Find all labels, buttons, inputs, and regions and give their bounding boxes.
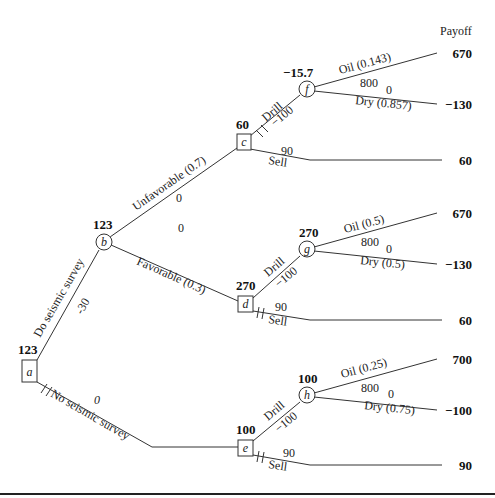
h-oil-cost: 800 [361,381,379,395]
h-oil-label: Oil (0.25) [339,355,388,381]
do-survey-cost: -30 [72,296,92,317]
node-g: g 270 [299,225,319,257]
node-e: e 100 [236,422,256,456]
payoff-value: 670 [453,206,473,221]
node-g-label: g [304,242,310,256]
node-b-value: 123 [93,217,113,232]
g-oil-cost: 800 [361,235,379,249]
unfavorable-label: Unfavorable (0.7) [130,153,208,214]
node-d-label: d [243,297,250,311]
d-sell-label: Sell [268,312,289,329]
node-c: c 60 [236,117,251,150]
no-survey-label: No seismic survey [49,386,133,442]
payoff-value: −100 [445,403,472,418]
node-c-label: c [241,135,247,149]
g-oil-label: Oil (0.5) [342,212,386,236]
payoff-header: Payoff [440,24,472,38]
node-b-label: b [101,235,107,249]
no-survey-cost: 0 [94,393,100,407]
node-e-value: 100 [236,422,256,437]
h-dry-cost: 0 [388,387,394,401]
node-d: d 270 [236,278,256,312]
node-b: b 123 [93,217,113,250]
decision-tree: a 123 b 123 c 60 f −15.7 d 270 g 270 e 1… [0,0,495,498]
payoff-value: 60 [459,313,472,328]
h-dry-label: Dry (0.75) [364,398,416,417]
payoff-value: 90 [459,458,472,473]
payoff-value: 670 [453,46,473,61]
node-c-value: 60 [236,117,249,132]
unfavorable-cost: 0 [176,191,182,205]
favorable-label: Favorable (0.3) [135,254,208,297]
favorable-cost: 0 [178,221,184,235]
g-dry-cost: 0 [386,242,392,256]
node-h: h 100 [298,371,318,403]
c-sell-label: Sell [268,153,289,170]
g-dry-label: Dry (0.5) [360,253,406,272]
payoff-value: −130 [445,97,472,112]
f-oil-cost: 800 [360,76,378,90]
node-d-value: 270 [236,278,256,293]
node-f-value: −15.7 [283,65,314,80]
node-a: a 123 [18,342,38,382]
node-a-label: a [27,365,33,379]
payoff-value: −130 [445,257,472,272]
node-h-label: h [304,388,310,402]
e-sell-cost: 90 [283,446,295,460]
payoff-column: 670 −130 60 670 −130 60 700 −100 90 [445,46,472,473]
node-g-value: 270 [299,225,319,240]
node-h-value: 100 [298,371,318,386]
e-sell-label: Sell [268,457,289,474]
f-dry-label: Dry (0.857) [355,93,413,113]
node-a-value: 123 [18,342,38,357]
payoff-value: 700 [453,352,473,367]
d-sell-cost: 90 [275,300,287,314]
f-dry-cost: 0 [386,83,392,97]
payoff-value: 60 [459,153,472,168]
node-e-label: e [243,441,249,455]
node-f: f −15.7 [283,65,315,97]
